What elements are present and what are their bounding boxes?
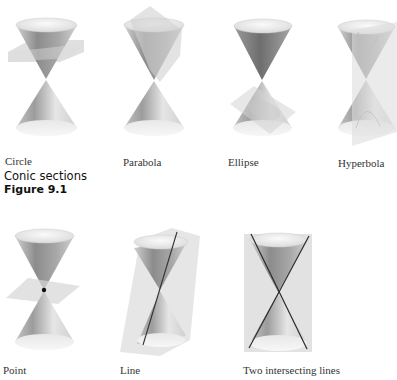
apex-point-marker — [42, 288, 46, 292]
label-hyperbola: Hyperbola — [338, 157, 384, 169]
line-diagram — [120, 228, 200, 356]
ellipse-diagram — [230, 19, 296, 136]
label-line: Line — [120, 364, 140, 376]
label-two-intersecting-lines: Two intersecting lines — [243, 364, 340, 376]
label-circle: Circle — [5, 155, 32, 167]
figure-number: Figure 9.1 — [4, 183, 67, 196]
point-diagram — [6, 229, 80, 350]
label-point: Point — [3, 364, 26, 376]
circle-diagram — [8, 18, 84, 136]
label-ellipse: Ellipse — [228, 156, 259, 168]
parabola-diagram — [124, 6, 184, 136]
two-lines-diagram — [244, 233, 312, 352]
figure-caption-title: Conic sections — [4, 169, 87, 183]
label-parabola: Parabola — [123, 156, 161, 168]
hyperbola-diagram — [338, 20, 397, 146]
